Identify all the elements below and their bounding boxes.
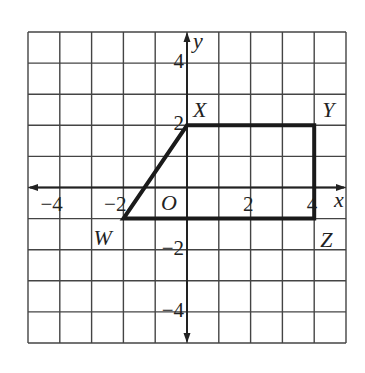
y-axis-down-arrow-icon [184, 333, 191, 343]
coordinate-plane: yxO −4−22442−2−4 WXYZ [0, 0, 365, 373]
x-tick-label: 2 [243, 192, 254, 216]
vertex-label-z: Z [320, 227, 333, 252]
axes: yxO [28, 28, 346, 343]
origin-label: O [161, 190, 177, 215]
y-tick-label: 4 [174, 49, 185, 73]
x-tick-label: −4 [40, 192, 63, 216]
vertex-label-x: X [192, 97, 208, 122]
x-tick-label: −2 [104, 192, 126, 216]
vertex-label-w: W [93, 225, 113, 250]
y-axis-up-arrow-icon [184, 32, 191, 42]
x-axis-label: x [333, 187, 344, 212]
y-axis-label: y [191, 28, 203, 53]
x-axis-left-arrow-icon [28, 184, 38, 191]
vertex-label-y: Y [322, 97, 337, 122]
y-tick-label: −2 [162, 236, 184, 260]
y-tick-label: −4 [162, 298, 185, 322]
vertex-labels: WXYZ [93, 97, 337, 251]
